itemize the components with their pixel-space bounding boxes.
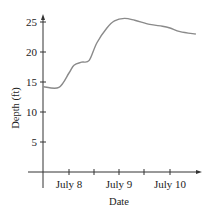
x-axis-arrow-icon <box>196 170 202 174</box>
depth-line <box>44 18 196 88</box>
y-axis-title: Depth (ft) <box>10 87 22 129</box>
x-tick-label-july10: July 10 <box>154 178 187 190</box>
x-tick-label-july9: July 9 <box>106 178 133 190</box>
y-tick-label-5: 5 <box>32 136 38 148</box>
x-tick-label-july8: July 8 <box>56 178 83 190</box>
y-axis-arrow-icon <box>41 14 45 20</box>
y-tick-label-10: 10 <box>26 106 38 118</box>
depth-chart: 5 10 15 20 25 July 8 July 9 July 10 Date… <box>0 0 215 216</box>
x-axis-title: Date <box>109 196 129 207</box>
y-tick-label-20: 20 <box>26 46 38 58</box>
y-tick-label-15: 15 <box>26 76 38 88</box>
y-tick-label-25: 25 <box>26 16 38 28</box>
